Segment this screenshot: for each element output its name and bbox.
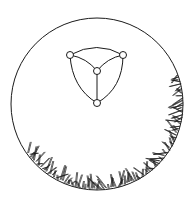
edge-left-bottom — [70, 55, 97, 103]
node-top-left — [67, 52, 74, 59]
node-center — [94, 68, 101, 75]
node-bottom — [94, 100, 101, 107]
edge-top — [70, 48, 123, 56]
edge-right-center — [97, 55, 123, 71]
edge-right-bottom — [97, 55, 123, 103]
node-top-right — [120, 52, 127, 59]
edge-left-center — [70, 55, 97, 71]
diagram-canvas — [0, 0, 195, 208]
graph — [67, 48, 127, 107]
hatching — [28, 75, 184, 190]
